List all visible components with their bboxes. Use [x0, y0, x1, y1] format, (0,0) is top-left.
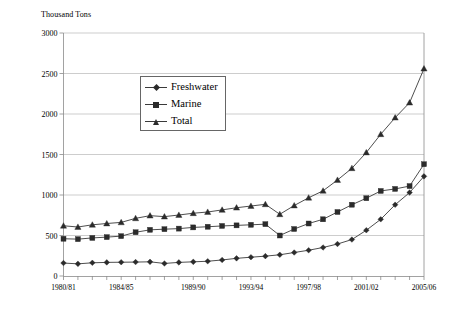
data-point [349, 202, 354, 207]
data-point [263, 253, 269, 259]
y-tick-label: 3000 [42, 29, 58, 38]
data-point [364, 196, 369, 201]
data-point [219, 257, 225, 263]
data-point [320, 245, 326, 251]
data-point [220, 223, 225, 228]
data-point [190, 259, 196, 265]
series-marine [61, 162, 427, 242]
y-tick-label: 1000 [42, 191, 58, 200]
data-point [306, 195, 312, 201]
data-point [133, 259, 139, 265]
data-point [147, 259, 153, 265]
data-point [205, 258, 211, 264]
data-point [234, 256, 240, 262]
data-point [393, 186, 398, 191]
data-point [75, 237, 80, 242]
line-chart: Thousand Tons 050010001500200025003000 1… [0, 0, 453, 315]
data-point [119, 234, 124, 239]
data-point [407, 184, 412, 189]
y-tick-label: 500 [46, 232, 58, 241]
data-point [75, 261, 81, 267]
data-series-layer [60, 66, 427, 267]
series-line [64, 69, 425, 227]
legend-label-marine: Marine [171, 99, 201, 110]
total-marker-icon [145, 117, 167, 127]
x-tick-label: 1993/94 [239, 283, 264, 292]
marine-marker-icon [145, 100, 167, 110]
data-point [104, 260, 110, 266]
data-point [60, 223, 66, 229]
data-point [61, 236, 66, 241]
data-point [291, 202, 297, 208]
x-tick-label: 1989/90 [181, 283, 206, 292]
x-axis-tick-labels: 1980/811984/851989/901993/941997/982001/… [51, 283, 436, 292]
y-tick-label: 1500 [42, 151, 58, 160]
legend-item-total: Total [145, 113, 192, 130]
data-point [306, 247, 312, 253]
data-point [262, 201, 268, 207]
data-point [320, 188, 326, 194]
data-point [277, 233, 282, 238]
y-tick-label: 2000 [42, 110, 58, 119]
data-point [263, 222, 268, 227]
data-point [349, 237, 355, 243]
data-point [291, 250, 297, 256]
x-tick-label: 1980/81 [51, 283, 76, 292]
x-tick-label: 2005/06 [412, 283, 437, 292]
data-point [176, 260, 182, 266]
data-point [162, 261, 168, 267]
data-point [90, 260, 96, 266]
data-point [61, 260, 67, 266]
x-tick-label: 1984/85 [109, 283, 134, 292]
legend-item-marine: Marine [145, 96, 201, 113]
data-point [406, 100, 412, 106]
data-point [176, 226, 181, 231]
data-point [292, 227, 297, 232]
plot-area: 050010001500200025003000 1980/811984/851… [0, 0, 453, 315]
data-point [234, 223, 239, 228]
data-point [90, 235, 95, 240]
data-point [248, 222, 253, 227]
data-point [147, 213, 153, 219]
data-point [118, 259, 124, 265]
series-total [60, 66, 427, 230]
data-point [205, 224, 210, 229]
legend-label-freshwater: Freshwater [171, 82, 218, 93]
y-axis-tick-labels: 050010001500200025003000 [42, 29, 58, 281]
data-point [321, 217, 326, 222]
x-tick-label: 2001/02 [354, 283, 379, 292]
data-point [162, 227, 167, 232]
data-point [306, 221, 311, 226]
grid-and-axes: 050010001500200025003000 1980/811984/851… [42, 29, 437, 292]
series-line [64, 176, 425, 263]
data-point [104, 235, 109, 240]
data-point [191, 225, 196, 230]
chart-legend: Freshwater Marine Total [140, 76, 226, 131]
data-point [277, 252, 283, 258]
data-point [133, 230, 138, 235]
y-tick-label: 2500 [42, 70, 58, 79]
data-point [335, 241, 341, 247]
x-tick-label: 1997/98 [296, 283, 321, 292]
data-point [277, 211, 283, 217]
data-point [148, 227, 153, 232]
data-point [378, 188, 383, 193]
freshwater-marker-icon [145, 83, 167, 93]
legend-label-total: Total [171, 116, 192, 127]
data-point [335, 210, 340, 215]
series-freshwater [61, 174, 427, 267]
y-tick-label: 0 [54, 272, 58, 281]
data-point [422, 162, 427, 167]
data-point [421, 66, 427, 72]
legend-item-freshwater: Freshwater [145, 79, 218, 96]
data-point [248, 254, 254, 260]
